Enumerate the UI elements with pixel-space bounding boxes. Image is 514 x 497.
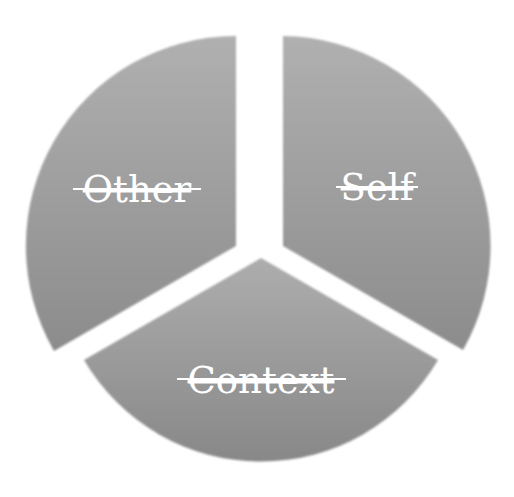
three-segment-pie-diagram: Other Self Context [0,0,514,497]
segment-context-label: Context [188,359,335,402]
